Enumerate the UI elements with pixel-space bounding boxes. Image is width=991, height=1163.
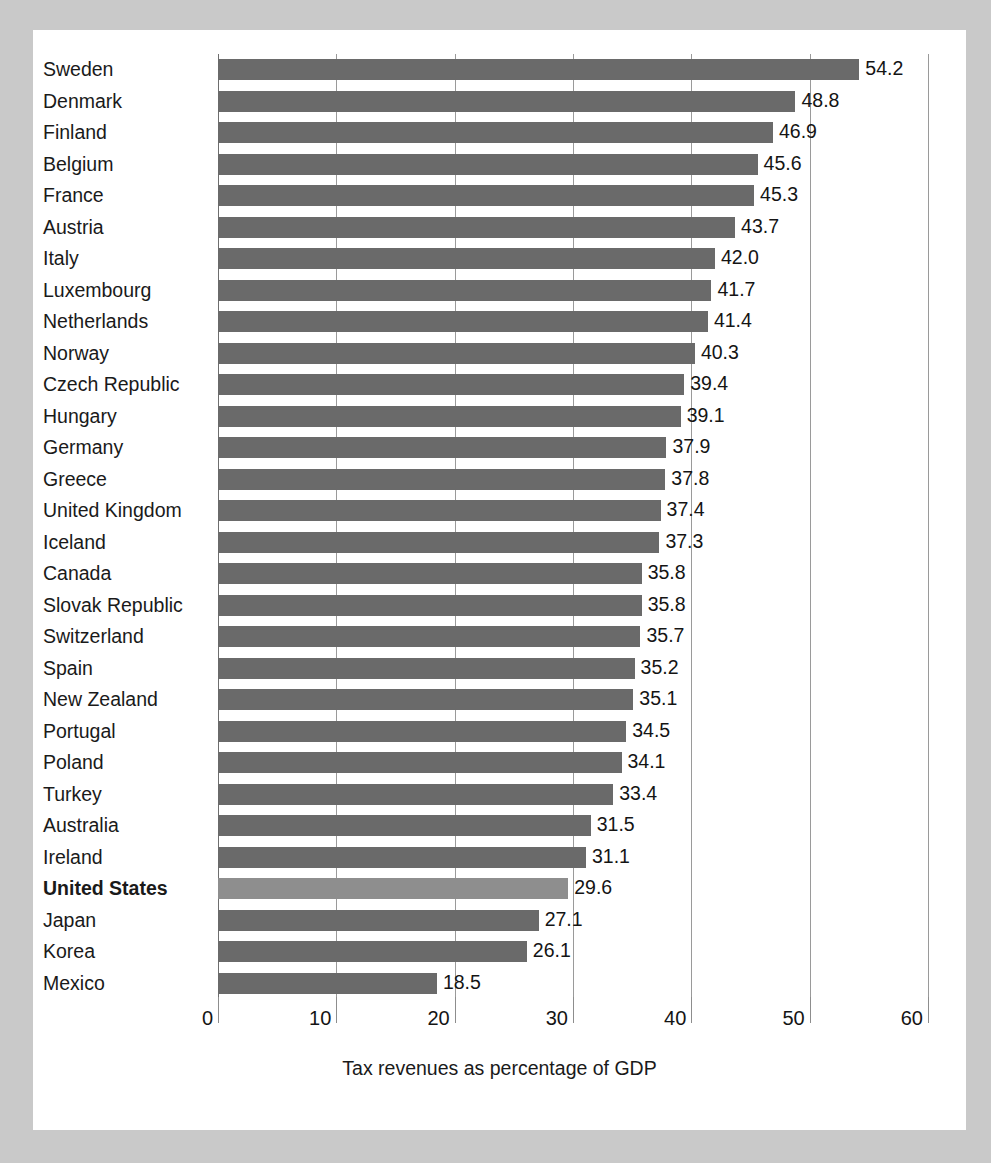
- category-label: Poland: [43, 747, 215, 779]
- bar-value-label: 39.1: [681, 401, 725, 433]
- bar-row: Poland34.1: [33, 747, 966, 779]
- category-label: Australia: [43, 810, 215, 842]
- bar-value-label: 35.2: [635, 653, 679, 685]
- bar[interactable]: [218, 154, 758, 175]
- bar-value-label: 35.8: [642, 590, 686, 622]
- bar-value-label: 29.6: [568, 873, 612, 905]
- bar-value-label: 34.1: [622, 747, 666, 779]
- category-label: Canada: [43, 558, 215, 590]
- bar[interactable]: [218, 784, 613, 805]
- bar[interactable]: [218, 941, 527, 962]
- bar[interactable]: [218, 406, 681, 427]
- bar-row: Austria43.7: [33, 212, 966, 244]
- category-label: Sweden: [43, 54, 215, 86]
- x-tick-mark-10: [336, 997, 337, 1023]
- category-label: Slovak Republic: [43, 590, 215, 622]
- bar-value-label: 48.8: [795, 86, 839, 118]
- category-label: Belgium: [43, 149, 215, 181]
- category-label: Austria: [43, 212, 215, 244]
- bar[interactable]: [218, 532, 659, 553]
- bar-row: United Kingdom37.4: [33, 495, 966, 527]
- x-tick-label-30: 30: [546, 1007, 573, 1030]
- bar-value-label: 33.4: [613, 779, 657, 811]
- category-label: Switzerland: [43, 621, 215, 653]
- bar-value-label: 45.6: [758, 149, 802, 181]
- bar-value-label: 26.1: [527, 936, 571, 968]
- bar-row: Japan27.1: [33, 905, 966, 937]
- bar[interactable]: [218, 563, 642, 584]
- bar-value-label: 37.3: [659, 527, 703, 559]
- chart-panel: Sweden54.2Denmark48.8Finland46.9Belgium4…: [33, 30, 966, 1130]
- bar-row: New Zealand35.1: [33, 684, 966, 716]
- bar[interactable]: [218, 91, 795, 112]
- bar[interactable]: [218, 374, 684, 395]
- bar[interactable]: [218, 311, 708, 332]
- bar-row: Canada35.8: [33, 558, 966, 590]
- x-tick-mark-60: [928, 997, 929, 1023]
- bar-row: Iceland37.3: [33, 527, 966, 559]
- category-label: Czech Republic: [43, 369, 215, 401]
- bar[interactable]: [218, 217, 735, 238]
- category-label: Spain: [43, 653, 215, 685]
- bar-row: Norway40.3: [33, 338, 966, 370]
- category-label: Luxembourg: [43, 275, 215, 307]
- bar[interactable]: [218, 878, 568, 899]
- bar[interactable]: [218, 689, 633, 710]
- bar-value-label: 27.1: [539, 905, 583, 937]
- x-axis-title: Tax revenues as percentage of GDP: [33, 1057, 966, 1080]
- category-label: Italy: [43, 243, 215, 275]
- bar[interactable]: [218, 815, 591, 836]
- bar-value-label: 46.9: [773, 117, 817, 149]
- bar-value-label: 43.7: [735, 212, 779, 244]
- x-tick-label-10: 10: [309, 1007, 336, 1030]
- bar[interactable]: [218, 343, 695, 364]
- category-label: Japan: [43, 905, 215, 937]
- bar-value-label: 54.2: [859, 54, 903, 86]
- bar-value-label: 45.3: [754, 180, 798, 212]
- category-label: Norway: [43, 338, 215, 370]
- bar[interactable]: [218, 847, 586, 868]
- bar[interactable]: [218, 658, 635, 679]
- category-label: France: [43, 180, 215, 212]
- bar[interactable]: [218, 752, 622, 773]
- x-tick-label-60: 60: [901, 1007, 928, 1030]
- bar-value-label: 37.9: [666, 432, 710, 464]
- category-label: Finland: [43, 117, 215, 149]
- bar-value-label: 41.4: [708, 306, 752, 338]
- bar-row: Finland46.9: [33, 117, 966, 149]
- bar[interactable]: [218, 595, 642, 616]
- bar[interactable]: [218, 973, 437, 994]
- bar-value-label: 31.1: [586, 842, 630, 874]
- bar-row: Netherlands41.4: [33, 306, 966, 338]
- bar[interactable]: [218, 626, 640, 647]
- bar[interactable]: [218, 721, 626, 742]
- bar-row: Korea26.1: [33, 936, 966, 968]
- bar-row: Sweden54.2: [33, 54, 966, 86]
- category-label: United Kingdom: [43, 495, 215, 527]
- bar[interactable]: [218, 280, 711, 301]
- bar-row: Greece37.8: [33, 464, 966, 496]
- category-label: Iceland: [43, 527, 215, 559]
- x-tick-label-50: 50: [782, 1007, 809, 1030]
- bar[interactable]: [218, 910, 539, 931]
- bar-row: Spain35.2: [33, 653, 966, 685]
- bar[interactable]: [218, 469, 665, 490]
- bar-row: France45.3: [33, 180, 966, 212]
- bar-value-label: 34.5: [626, 716, 670, 748]
- bar-row: Luxembourg41.7: [33, 275, 966, 307]
- bar-row: Mexico18.5: [33, 968, 966, 1000]
- bar-value-label: 40.3: [695, 338, 739, 370]
- category-label: New Zealand: [43, 684, 215, 716]
- bar[interactable]: [218, 122, 773, 143]
- bar-row: Belgium45.6: [33, 149, 966, 181]
- x-tick-mark-0: [218, 997, 219, 1023]
- bar[interactable]: [218, 185, 754, 206]
- bar[interactable]: [218, 248, 715, 269]
- bar-row: United States29.6: [33, 873, 966, 905]
- bar[interactable]: [218, 59, 859, 80]
- bar[interactable]: [218, 500, 661, 521]
- bar[interactable]: [218, 437, 666, 458]
- category-label: Ireland: [43, 842, 215, 874]
- category-label: Portugal: [43, 716, 215, 748]
- bar-row: Italy42.0: [33, 243, 966, 275]
